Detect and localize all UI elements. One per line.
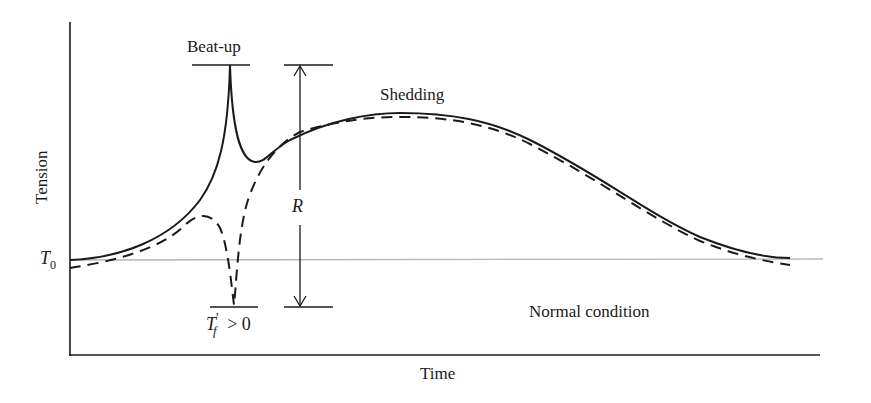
tf-subscript: f — [213, 323, 217, 338]
tf-condition: > 0 — [223, 314, 251, 334]
t0-label: T0 — [40, 248, 56, 273]
tension-time-diagram: Tension Time Beat-up Shedding R Normal c… — [0, 0, 871, 403]
y-axis-label: Tension — [32, 150, 52, 204]
t0-baseline — [70, 259, 823, 260]
x-axis-label: Time — [420, 364, 455, 384]
shedding-label: Shedding — [380, 85, 444, 105]
t0-main: T — [40, 248, 50, 268]
range-label: R — [292, 196, 303, 217]
t0-subscript: 0 — [50, 258, 56, 272]
dashed-tension-curve — [70, 117, 790, 305]
beat-up-label: Beat-up — [187, 37, 241, 57]
normal-condition-label: Normal condition — [529, 302, 649, 322]
tf-condition-label: T′f > 0 — [206, 314, 251, 339]
diagram-canvas — [0, 0, 871, 403]
